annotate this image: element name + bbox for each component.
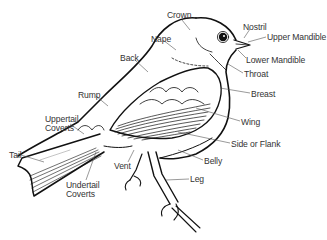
label-vent: Vent: [114, 162, 131, 171]
label-rump: Rump: [78, 91, 101, 100]
label-wing: Wing: [241, 118, 260, 127]
label-lower-mandible: Lower Mandible: [246, 56, 305, 65]
label-throat: Throat: [244, 70, 268, 79]
label-nape: Nape: [151, 35, 171, 44]
label-back: Back: [120, 54, 139, 63]
label-crown: Crown: [167, 11, 191, 20]
label-undertail-coverts-line2: Coverts: [66, 190, 95, 199]
label-nostril: Nostril: [243, 23, 267, 32]
label-breast: Breast: [251, 90, 275, 99]
label-belly: Belly: [204, 157, 222, 166]
label-uppertail-coverts-line2: Coverts: [45, 124, 74, 133]
label-upper-mandible: Upper Mandible: [267, 33, 326, 42]
label-tail: Tail: [9, 151, 22, 160]
bird-anatomy-diagram: Crown Nostril Upper Mandible Nape Back L…: [0, 0, 327, 240]
label-side-or-flank: Side or Flank: [231, 140, 280, 149]
label-leg: Leg: [190, 175, 204, 184]
